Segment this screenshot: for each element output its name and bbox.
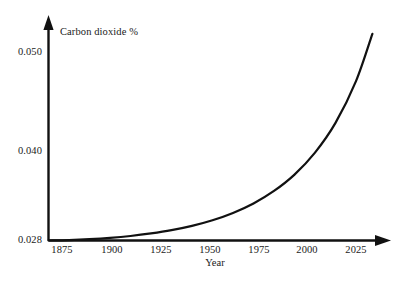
data-series-line [49, 34, 373, 241]
y-axis-title: Carbon dioxide % [60, 26, 138, 37]
chart-figure: 0.050 0.040 0.028 1875 1900 1925 1950 19… [0, 0, 410, 281]
x-axis-tick-label: 1925 [150, 244, 171, 255]
x-axis-title: Year [205, 257, 225, 268]
chart-plot-area [0, 0, 410, 281]
y-axis-tick-label: 0.028 [0, 234, 42, 245]
y-axis-tick-label: 0.050 [0, 46, 42, 57]
y-axis-tick-label: 0.040 [0, 145, 42, 156]
x-axis-tick-label: 2000 [296, 244, 317, 255]
x-axis-tick-label: 1975 [248, 244, 269, 255]
x-axis-tick-label: 1900 [101, 244, 122, 255]
x-axis-tick-label: 2025 [345, 244, 366, 255]
y-axis-arrowhead [43, 15, 53, 30]
x-axis-tick-label: 1950 [199, 244, 220, 255]
x-axis-tick-label: 1875 [51, 244, 72, 255]
x-axis-arrowhead [375, 235, 391, 246]
